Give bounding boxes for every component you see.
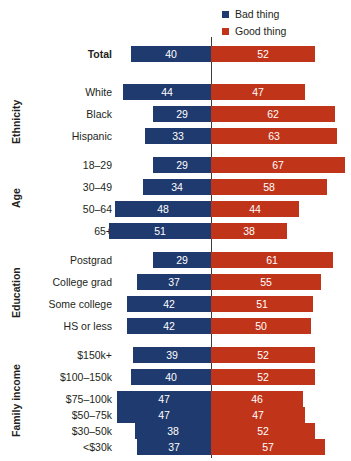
row-category-label: $150k+: [77, 350, 112, 361]
bar-good-thing: 62: [211, 106, 335, 122]
bar-good-thing: 47: [211, 407, 305, 423]
bar-value-label: 48: [157, 204, 169, 215]
bar-value-label: 34: [171, 182, 183, 193]
chart-row: $30–50k3852: [0, 423, 351, 439]
bar-good-thing: 46: [211, 391, 303, 407]
bar-value-label: 52: [257, 350, 269, 361]
bar-value-label: 46: [251, 394, 263, 405]
chart-row: $100–150k4052: [0, 369, 351, 385]
bar-value-label: 38: [167, 426, 179, 437]
bar-bad-thing: 37: [137, 439, 211, 455]
bar-value-label: 62: [267, 109, 279, 120]
bar-good-thing: 38: [211, 223, 287, 239]
bar-good-thing: 52: [211, 46, 315, 62]
row-category-label: College grad: [52, 277, 112, 288]
bar-good-thing: 67: [211, 157, 345, 173]
bar-bad-thing: 33: [145, 128, 211, 144]
chart-row: 65+5138: [0, 223, 351, 239]
bar-value-label: 47: [252, 87, 264, 98]
row-category-label: Black: [86, 109, 112, 120]
chart-row: Some college4251: [0, 296, 351, 312]
bar-value-label: 44: [249, 204, 261, 215]
chart-row: <$30k3757: [0, 439, 351, 455]
chart-row: Total4052: [0, 46, 351, 62]
bar-value-label: 44: [161, 87, 173, 98]
chart-row: 50–644844: [0, 201, 351, 217]
bar-value-label: 52: [257, 372, 269, 383]
bar-value-label: 37: [168, 277, 180, 288]
chart-row: College grad3755: [0, 274, 351, 290]
bar-bad-thing: 29: [153, 252, 211, 268]
bar-value-label: 55: [260, 277, 272, 288]
bar-bad-thing: 29: [153, 106, 211, 122]
bar-value-label: 29: [176, 160, 188, 171]
bar-value-label: 39: [166, 350, 178, 361]
row-category-label: Some college: [48, 299, 112, 310]
chart-row: 30–493458: [0, 179, 351, 195]
bar-bad-thing: 51: [109, 223, 211, 239]
bar-bad-thing: 42: [127, 296, 211, 312]
bar-value-label: 63: [268, 131, 280, 142]
row-category-label: 18–29: [83, 160, 112, 171]
group-axis-label: Family income: [11, 347, 22, 455]
row-category-label: Total: [88, 49, 112, 60]
row-category-label: <$30k: [83, 442, 112, 453]
group-axis-label: Ethnicity: [11, 84, 22, 160]
bar-bad-thing: 38: [135, 423, 211, 439]
row-category-label: $50–75k: [72, 410, 112, 421]
bar-value-label: 58: [263, 182, 275, 193]
bar-value-label: 29: [176, 255, 188, 266]
bar-value-label: 57: [262, 442, 274, 453]
row-category-label: 50–64: [83, 204, 112, 215]
bar-bad-thing: 34: [143, 179, 211, 195]
bar-value-label: 29: [176, 109, 188, 120]
bar-value-label: 37: [168, 442, 180, 453]
bar-bad-thing: 29: [153, 157, 211, 173]
row-category-label: Postgrad: [70, 255, 112, 266]
chart-row: $50–75k4747: [0, 407, 351, 423]
bar-bad-thing: 37: [137, 274, 211, 290]
bar-bad-thing: 40: [131, 46, 211, 62]
bar-bad-thing: 39: [133, 347, 211, 363]
bar-good-thing: 58: [211, 179, 327, 195]
bar-bad-thing: 47: [117, 407, 211, 423]
bar-good-thing: 55: [211, 274, 321, 290]
bar-good-thing: 52: [211, 423, 315, 439]
bar-value-label: 40: [165, 372, 177, 383]
bar-good-thing: 50: [211, 318, 311, 334]
bar-value-label: 40: [165, 49, 177, 60]
bar-value-label: 42: [163, 299, 175, 310]
bar-bad-thing: 47: [117, 391, 211, 407]
bar-bad-thing: 48: [115, 201, 211, 217]
bar-value-label: 52: [257, 49, 269, 60]
bar-value-label: 51: [256, 299, 268, 310]
bar-good-thing: 52: [211, 369, 315, 385]
chart-row: $75–100k4746: [0, 391, 351, 407]
chart-row: $150k+3952: [0, 347, 351, 363]
bar-bad-thing: 44: [123, 84, 211, 100]
bar-value-label: 61: [266, 255, 278, 266]
row-category-label: White: [85, 87, 112, 98]
bar-value-label: 50: [255, 321, 267, 332]
group-axis-label: Age: [11, 157, 22, 239]
group-axis-label: Education: [11, 252, 22, 334]
bar-bad-thing: 40: [131, 369, 211, 385]
bar-value-label: 52: [257, 426, 269, 437]
bar-value-label: 67: [272, 160, 284, 171]
bar-value-label: 38: [243, 226, 255, 237]
chart-row: 18–292967: [0, 157, 351, 173]
row-category-label: 30–49: [83, 182, 112, 193]
bar-value-label: 47: [158, 410, 170, 421]
bar-bad-thing: 42: [127, 318, 211, 334]
plot-area: Total4052White4447Black2962Hispanic33631…: [0, 0, 351, 461]
bar-value-label: 51: [154, 226, 166, 237]
bar-good-thing: 47: [211, 84, 305, 100]
row-category-label: HS or less: [64, 321, 112, 332]
chart-row: Hispanic3363: [0, 128, 351, 144]
bar-value-label: 33: [172, 131, 184, 142]
chart-row: HS or less4250: [0, 318, 351, 334]
diverging-bar-chart: Bad thingGood thing Total4052White4447Bl…: [0, 0, 351, 461]
bar-value-label: 42: [163, 321, 175, 332]
bar-good-thing: 44: [211, 201, 299, 217]
bar-good-thing: 52: [211, 347, 315, 363]
